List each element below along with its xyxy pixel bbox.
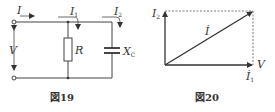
label-V: V	[9, 44, 18, 57]
resistor-icon	[64, 38, 72, 61]
label-Xc: XC	[122, 45, 136, 58]
figure-canvas: I I1 I2 V R XC 図19 I2 İ V İ1 図20	[0, 0, 275, 112]
label-I2: I2	[113, 5, 122, 18]
label-R: R	[74, 44, 83, 57]
caption-fig19: 図19	[50, 92, 74, 103]
phasor-diagram: I2 İ V İ1 図20	[151, 7, 266, 103]
terminal-bottom-icon	[12, 76, 16, 80]
label-V: V	[257, 58, 266, 71]
label-I1: I1	[69, 5, 78, 18]
label-I2: I2	[151, 7, 160, 20]
phasor-i-arrow-icon	[165, 12, 252, 65]
label-I1-vector: İ1	[245, 69, 254, 83]
caption-fig20: 図20	[195, 92, 219, 103]
label-I-vector: İ	[204, 24, 210, 38]
label-I: I	[16, 4, 22, 17]
terminal-top-icon	[12, 20, 16, 24]
circuit-diagram: I I1 I2 V R XC 図19	[9, 4, 136, 103]
